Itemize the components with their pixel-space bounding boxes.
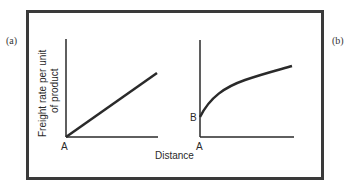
- y-axis-label-line2: of product: [49, 68, 60, 113]
- x-axis-label: Distance: [155, 150, 194, 161]
- panel-b-axes: [200, 40, 294, 137]
- panel-b-origin-label: A: [196, 141, 203, 152]
- panel-a-axes: [66, 39, 158, 137]
- panel-b-concave-curve: [200, 66, 292, 117]
- panel-a-linear-line: [66, 73, 157, 137]
- panel-a-origin-label: A: [61, 141, 68, 152]
- panel-b-intercept-label: B: [190, 112, 197, 123]
- y-axis-label-line1: Freight rate per unit: [37, 50, 48, 137]
- diagram-canvas: A Freight rate per unit of product Dista…: [0, 0, 352, 184]
